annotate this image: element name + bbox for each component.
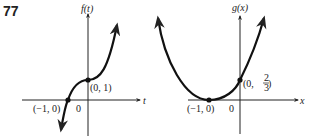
f-point-label-neg1-0: (−1, 0)	[33, 103, 60, 115]
graph-g: g(x) x 0 (−1, 0) (0, 2 3 )	[158, 2, 305, 134]
graph-f: f(t) t 0 (−1, 0) (0, 1)	[22, 3, 146, 136]
g-origin-label: 0	[229, 103, 234, 114]
g-point-label-suffix: )	[268, 78, 271, 90]
f-curve	[61, 25, 117, 130]
f-point-neg1-0	[65, 97, 70, 102]
g-point-label-prefix: (0,	[243, 78, 254, 90]
graphs-figure: f(t) t 0 (−1, 0) (0, 1) g(x) x 0 (−1, 0)…	[0, 0, 312, 139]
f-y-axis-label: f(t)	[81, 3, 94, 15]
g-point-0-two-thirds	[237, 77, 242, 82]
g-x-axis-label: x	[299, 95, 305, 106]
f-x-axis-label: t	[143, 95, 146, 106]
f-point-label-0-1: (0, 1)	[90, 82, 112, 94]
g-point-label-neg1-0: (−1, 0)	[187, 103, 214, 115]
g-y-axis-label: g(x)	[232, 2, 249, 14]
f-origin-label: 0	[76, 103, 81, 114]
g-point-neg1-0	[206, 97, 211, 102]
